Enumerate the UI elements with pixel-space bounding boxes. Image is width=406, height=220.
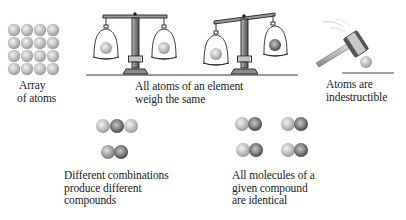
diatomic-molecule-icon	[101, 145, 128, 159]
caption-weigh: All atoms of an element weigh the same	[135, 80, 243, 105]
caption-line: are identical	[232, 194, 315, 207]
balance-scale-tilted-icon	[203, 13, 288, 74]
caption-line: All molecules of a	[232, 169, 315, 182]
caption-line: produce different	[64, 182, 169, 195]
identical-molecules-icon	[235, 117, 308, 157]
caption-line: Atoms are	[326, 78, 387, 91]
caption-line: compounds	[64, 194, 169, 207]
caption-line: Array	[17, 79, 56, 92]
caption-combinations: Different combinations produce different…	[64, 169, 169, 207]
caption-line: of atoms	[17, 92, 56, 105]
dalton-atomic-theory-illustration	[0, 0, 406, 220]
caption-line: Different combinations	[64, 169, 169, 182]
caption-array: Array of atoms	[17, 79, 56, 104]
atom-array-icon	[8, 24, 59, 75]
caption-line: given compound	[232, 182, 315, 195]
triatomic-molecule-icon	[96, 119, 138, 133]
atom-icon	[360, 56, 372, 68]
caption-identical: All molecules of a given compound are id…	[232, 169, 315, 207]
caption-line: weigh the same	[135, 93, 243, 106]
caption-line: All atoms of an element	[135, 80, 243, 93]
caption-line: indestructible	[326, 91, 387, 104]
caption-indestructible: Atoms are indestructible	[326, 78, 387, 103]
balance-scale-level-icon	[93, 13, 177, 74]
